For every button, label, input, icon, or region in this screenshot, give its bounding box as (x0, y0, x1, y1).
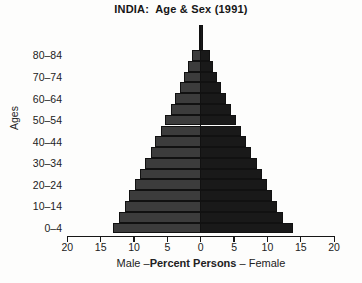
age-label-70-74: 70–74 (33, 71, 62, 83)
age-label-50-54: 50–54 (33, 114, 62, 126)
female-bar-65-69 (201, 83, 221, 92)
x-tick-label-1: 15 (95, 241, 107, 253)
female-bar-60-64 (201, 94, 225, 103)
female-bar-75-79 (201, 62, 212, 71)
female-bar-5-9 (201, 213, 283, 222)
pyramid-plot-area: Ages Male –Percent Persons – Female 2015… (0, 0, 362, 283)
female-bar-30-34 (201, 159, 256, 168)
female-bar-15-19 (201, 191, 271, 200)
female-bar-40-44 (201, 137, 245, 146)
x-tick-label-5: 5 (231, 241, 237, 253)
x-tick-label-3: 5 (164, 241, 170, 253)
y-axis-title: Ages (8, 106, 20, 130)
age-label-80-84: 80–84 (33, 49, 62, 61)
x-tick-label-8: 20 (328, 241, 340, 253)
female-bar-25-29 (201, 170, 261, 179)
female-bar-80-84 (201, 51, 209, 60)
female-bar-45-49 (201, 127, 241, 136)
x-tick-label-0: 20 (61, 241, 73, 253)
female-bar-0-4 (201, 224, 293, 233)
x-axis-label-male: Male – (117, 257, 150, 269)
pyramid-row-0-4 (113, 223, 293, 234)
population-pyramid-figure: INDIA: Age & Sex (1991) Ages Male –Perce… (0, 0, 362, 283)
x-tick-label-6: 10 (262, 241, 274, 253)
x-axis-title: Male –Percent Persons – Female (117, 257, 286, 269)
female-bar-55-59 (201, 105, 231, 114)
x-tick-label-4: 0 (198, 241, 204, 253)
age-label-40-44: 40–44 (33, 136, 62, 148)
x-tick-label-2: 10 (128, 241, 140, 253)
x-axis-label-female: – Female (236, 257, 285, 269)
age-label-60-64: 60–64 (33, 93, 62, 105)
x-axis-label-percent-persons: Percent Persons (150, 257, 237, 269)
age-label-0-4: 0–4 (44, 222, 62, 234)
center-divider-line (200, 25, 202, 233)
female-bar-70-74 (201, 73, 216, 82)
age-label-20-24: 20–24 (33, 179, 62, 191)
age-label-30-34: 30–34 (33, 157, 62, 169)
female-bar-20-24 (201, 180, 266, 189)
female-bar-10-14 (201, 202, 277, 211)
x-tick-label-7: 15 (295, 241, 307, 253)
female-bar-35-39 (201, 148, 251, 157)
female-bar-50-54 (201, 116, 235, 125)
age-label-10-14: 10–14 (33, 200, 62, 212)
